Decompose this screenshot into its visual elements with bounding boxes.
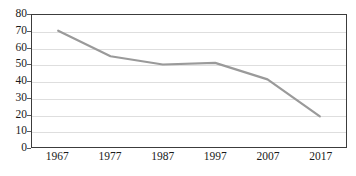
y-tick-mark <box>27 131 31 132</box>
line-chart: 01020304050607080 1967197719871997200720… <box>0 0 356 176</box>
x-tick-label: 2007 <box>238 150 298 163</box>
y-tick-label: 0 <box>3 142 27 154</box>
y-tick-label: 30 <box>3 92 27 104</box>
y-tick-label: 20 <box>3 109 27 121</box>
y-tick-label: 80 <box>3 8 27 20</box>
y-tick-mark <box>27 148 31 149</box>
y-tick-mark <box>27 81 31 82</box>
y-tick-label: 50 <box>3 58 27 70</box>
x-tick-label: 1977 <box>80 150 140 163</box>
x-tick-label: 2017 <box>291 150 351 163</box>
y-tick-mark <box>27 98 31 99</box>
series-line-layer <box>32 15 346 147</box>
y-tick-mark <box>27 64 31 65</box>
y-tick-label: 60 <box>3 42 27 54</box>
x-tick-label: 1967 <box>27 150 87 163</box>
y-tick-mark <box>27 14 31 15</box>
y-tick-label: 10 <box>3 125 27 137</box>
plot-area <box>31 14 347 148</box>
y-tick-mark <box>27 48 31 49</box>
y-tick-mark <box>27 31 31 32</box>
y-axis: 01020304050607080 <box>0 14 27 148</box>
series-1-line <box>58 31 320 117</box>
y-tick-label: 70 <box>3 25 27 37</box>
x-tick-label: 1987 <box>133 150 193 163</box>
chart-title-remnant <box>0 0 356 7</box>
y-tick-mark <box>27 115 31 116</box>
x-tick-label: 1997 <box>185 150 245 163</box>
x-axis: 196719771987199720072017 <box>31 150 347 170</box>
y-tick-label: 40 <box>3 75 27 87</box>
